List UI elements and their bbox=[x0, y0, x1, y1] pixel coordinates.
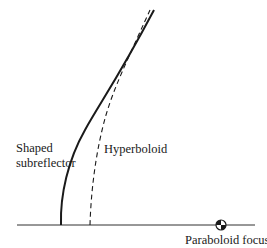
paraboloid-focus-label: Paraboloid focus bbox=[185, 234, 267, 247]
hyperboloid-curve bbox=[90, 10, 150, 225]
paraboloid-focus-icon bbox=[216, 220, 226, 230]
shaped-subreflector-label-line1: Shaped bbox=[16, 142, 53, 155]
shaped-subreflector-curve bbox=[61, 10, 154, 225]
subreflector-diagram bbox=[0, 0, 267, 248]
hyperboloid-label: Hyperboloid bbox=[104, 143, 167, 156]
shaped-subreflector-label-line2: subreflector bbox=[16, 157, 76, 170]
